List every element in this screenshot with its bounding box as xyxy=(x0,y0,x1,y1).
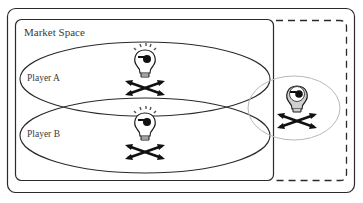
market-space-diagram: Market Space Player A Player B xyxy=(0,0,363,203)
market-space-box xyxy=(16,20,274,181)
player-a-label: Player A xyxy=(27,74,60,84)
player-a-cross-arrows-icon xyxy=(125,80,165,96)
external-cross-arrows-icon xyxy=(277,113,317,129)
player-b-pirate-lightbulb-icon xyxy=(134,106,156,140)
external-pirate-lightbulb-icon xyxy=(287,86,307,112)
player-a-pirate-lightbulb-icon xyxy=(134,43,156,77)
dashed-extension-boundary xyxy=(276,21,347,181)
player-b-label: Player B xyxy=(27,130,60,140)
market-space-label: Market Space xyxy=(24,27,85,38)
player-b-cross-arrows-icon xyxy=(125,144,165,160)
